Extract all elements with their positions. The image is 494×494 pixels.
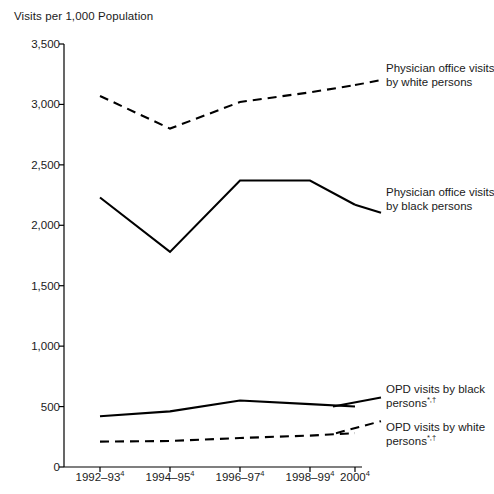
annotation-footnote: *,† [427, 433, 436, 442]
annotation-line-2-text: by black persons [386, 200, 472, 212]
annotation-physician-white: Physician office visitsby white persons [386, 62, 494, 89]
tick-marks [59, 44, 355, 472]
annotation-line-1: Physician office visits [386, 186, 494, 200]
annotation-line-2: by white persons [386, 76, 494, 90]
leader-line-physician-black [355, 205, 381, 213]
series-line-0 [100, 85, 355, 129]
leader-line-opd-black [333, 398, 381, 407]
annotation-line-2: persons*,† [386, 435, 485, 449]
annotation-line-1: Physician office visits [386, 62, 494, 76]
annotation-line-2: by black persons [386, 200, 494, 214]
annotation-line-2-text: by white persons [386, 76, 472, 88]
annotation-opd-white: OPD visits by whitepersons*,† [386, 421, 485, 448]
annotation-footnote: *,† [427, 395, 436, 404]
leader-line-opd-white [336, 421, 381, 433]
leader-line-physician-white [355, 80, 381, 85]
series-line-1 [100, 181, 355, 252]
annotation-physician-black: Physician office visitsby black persons [386, 186, 494, 213]
annotation-opd-black: OPD visits by blackpersons*,† [386, 383, 485, 410]
annotation-leader-lines [333, 80, 381, 433]
data-series [100, 85, 355, 442]
annotation-line-2-text: persons [386, 435, 427, 447]
series-line-3 [100, 433, 355, 441]
annotation-line-2-text: persons [386, 397, 427, 409]
annotation-line-2: persons*,† [386, 397, 485, 411]
series-line-2 [100, 401, 355, 417]
